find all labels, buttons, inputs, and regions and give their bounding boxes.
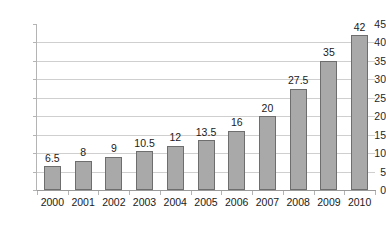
bar-value-label: 16 — [231, 117, 243, 128]
bar-slot: 6.5 — [44, 24, 61, 190]
bar[interactable] — [105, 157, 122, 190]
bar-value-label: 20 — [262, 103, 274, 114]
x-axis-tick-mark — [314, 191, 315, 195]
bar-slot: 13.5 — [198, 24, 215, 190]
x-axis-tick-mark — [129, 191, 130, 195]
bar-value-label: 12 — [169, 132, 181, 143]
bar-value-label: 35 — [323, 47, 335, 58]
bar-slot: 27.5 — [290, 24, 307, 190]
bar-slot: 8 — [75, 24, 92, 190]
bar-value-label: 27.5 — [288, 75, 308, 86]
x-axis-tick-label: 2009 — [314, 197, 345, 208]
x-axis-tick-mark — [221, 191, 222, 195]
bar-slot: 10.5 — [136, 24, 153, 190]
bar-slot: 20 — [259, 24, 276, 190]
x-axis-tick-mark — [68, 191, 69, 195]
bar[interactable] — [351, 35, 368, 190]
bar-slot: 35 — [320, 24, 337, 190]
bar-value-label: 13.5 — [196, 127, 216, 138]
x-axis-tick-mark — [283, 191, 284, 195]
x-axis-tick-label: 2001 — [68, 197, 99, 208]
bar-value-label: 42 — [354, 22, 366, 33]
x-axis-tick-label: 2004 — [160, 197, 191, 208]
bar[interactable] — [259, 116, 276, 190]
bar[interactable] — [44, 166, 61, 190]
x-axis-tick-mark — [252, 191, 253, 195]
bar-value-label: 9 — [111, 143, 117, 154]
bar[interactable] — [75, 161, 92, 191]
x-axis-line — [36, 190, 376, 191]
bar[interactable] — [167, 146, 184, 190]
x-axis-tick-mark — [375, 191, 376, 195]
bar[interactable] — [136, 151, 153, 190]
bar[interactable] — [290, 89, 307, 190]
x-axis-tick-label: 2000 — [37, 197, 68, 208]
bar-value-label: 6.5 — [45, 153, 60, 164]
x-axis-tick-mark — [37, 191, 38, 195]
x-axis-tick-label: 2006 — [221, 197, 252, 208]
bar[interactable] — [198, 140, 215, 190]
x-axis-tick-label: 2008 — [283, 197, 314, 208]
x-axis-tick-label: 2007 — [252, 197, 283, 208]
x-axis-tick-mark — [98, 191, 99, 195]
bar-slot: 42 — [351, 24, 368, 190]
bar-slot: 12 — [167, 24, 184, 190]
bar-series: 6.58910.51213.5162027.53542 — [37, 24, 375, 190]
x-axis-tick-label: 2005 — [191, 197, 222, 208]
x-axis-tick-mark — [160, 191, 161, 195]
x-axis-tick-label: 2002 — [98, 197, 129, 208]
x-axis-tick-mark — [344, 191, 345, 195]
x-axis-tick-label: 2003 — [129, 197, 160, 208]
bar-slot: 16 — [228, 24, 245, 190]
bar[interactable] — [228, 131, 245, 190]
x-axis-tick-label: 2010 — [344, 197, 375, 208]
bar-chart: 454035302520151050 6.58910.51213.5162027… — [0, 0, 386, 225]
x-axis-tick-mark — [191, 191, 192, 195]
bar-value-label: 8 — [80, 147, 86, 158]
bar-value-label: 10.5 — [134, 138, 154, 149]
bar-slot: 9 — [105, 24, 122, 190]
bar[interactable] — [320, 61, 337, 190]
